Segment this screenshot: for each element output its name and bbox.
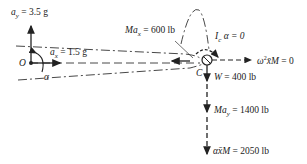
label-Ic-alpha: Ic α = 0 <box>215 32 245 44</box>
label-Max: Max = 600 lb <box>125 26 175 38</box>
Max-leader <box>175 41 193 58</box>
label-ax: ax = 1.5 g <box>50 48 87 60</box>
outline-upper <box>16 46 200 58</box>
label-C: C <box>196 69 202 79</box>
point-O <box>29 61 33 65</box>
label-O: O <box>19 59 26 69</box>
label-ay: ay = 3.5 g <box>11 8 48 20</box>
label-omega: ω2x̄M = 0 <box>257 55 294 67</box>
label-alpha: α <box>44 73 49 83</box>
label-May: May = 1400 lb <box>214 106 269 118</box>
label-alphaxM: αx̄M = 2050 lb <box>213 147 269 157</box>
label-W: W = 400 lb <box>214 73 256 83</box>
outline-hump <box>181 9 209 50</box>
